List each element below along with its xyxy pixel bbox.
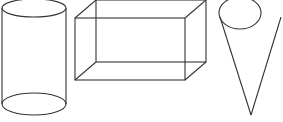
diagram-svg: Cylinder Rectangular prism Cone <box>0 0 283 122</box>
cylinder-top-ellipse <box>2 0 66 17</box>
prism-edge-top-left <box>75 0 96 18</box>
prism-edge-bottom-left <box>75 62 96 80</box>
cone-left-side <box>220 17 251 115</box>
cone-right-side <box>251 17 281 115</box>
prism-edge-top-right <box>185 0 206 18</box>
geometric-solids-diagram: Cylinder Rectangular prism Cone Cylinder… <box>0 0 283 122</box>
cylinder-bottom-ellipse <box>2 93 66 115</box>
prism-front-face <box>75 18 185 80</box>
prism-edge-bottom-right <box>185 62 206 80</box>
cylinder-shape: Cylinder <box>2 0 66 115</box>
cone-shape: Cone <box>219 0 281 115</box>
prism-back-face <box>96 0 206 62</box>
rectangular-prism-shape: Rectangular prism <box>75 0 206 80</box>
cone-base-ellipse <box>219 0 261 29</box>
